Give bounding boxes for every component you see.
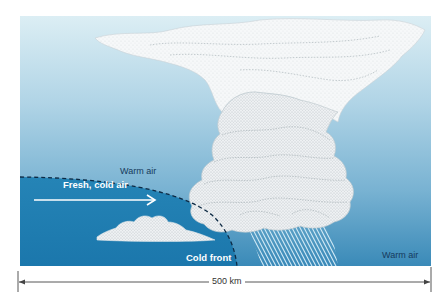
fresh-cold-air-label: Fresh, cold air (63, 180, 128, 190)
warm-air-upper-label: Warm air (120, 167, 156, 176)
cold-front-diagram: Warm air Fresh, cold air Cold front Warm… (0, 0, 445, 301)
warm-air-right-label: Warm air (382, 251, 418, 260)
cold-front-label: Cold front (186, 253, 231, 263)
scale-label: 500 km (209, 277, 245, 286)
